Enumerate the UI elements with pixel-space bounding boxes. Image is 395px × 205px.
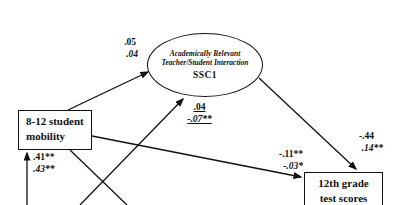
coef-lower-to-mobility-value2: .43** <box>33 164 75 176</box>
coef-mobility-to-test-scores-value1: -.11** <box>258 149 303 161</box>
coef-lower-to-mobility: .41** .43** <box>33 152 75 175</box>
coef-ssc1-to-test-scores-value2: .14** <box>336 143 383 155</box>
coef-lower-to-mobility-value1: .41** <box>33 152 75 164</box>
coef-lower-to-ssc1-value1: .04 <box>172 102 227 114</box>
coef-mobility-to-ssc1: .05 .04 <box>98 37 138 60</box>
line-mobility-to-lower <box>70 150 127 205</box>
coef-lower-to-ssc1-value2: -.07** <box>172 114 227 126</box>
coef-mobility-to-test-scores-value2: -.03* <box>258 161 303 173</box>
box-test-scores-line1: 12th grade <box>318 177 368 189</box>
box-student-mobility: 8-12 student mobility <box>18 110 92 150</box>
coef-lower-to-ssc1: .04 -.07** <box>172 102 227 125</box>
latent-title-line2: Teacher/Student Interaction <box>161 59 248 68</box>
coef-mobility-to-test-scores: -.11** -.03* <box>258 149 303 172</box>
box-test-scores-line2: test scores <box>320 192 368 204</box>
latent-variable-label: SSC1 <box>193 70 217 80</box>
arrow-mobility-to-ssc1 <box>68 72 148 110</box>
box-student-mobility-line2: mobility <box>26 130 65 142</box>
box-student-mobility-line1: 8-12 student <box>26 115 84 127</box>
coef-ssc1-to-test-scores: -.44 .14** <box>336 131 383 154</box>
coef-ssc1-to-test-scores-value1: -.44 <box>336 131 383 143</box>
box-test-scores: 12th grade test scores <box>304 172 383 205</box>
arrow-lower-to-ssc1 <box>80 99 183 205</box>
latent-ellipse-ssc1: Academically Relevant Teacher/Student In… <box>147 33 263 97</box>
path-diagram: Academically Relevant Teacher/Student In… <box>0 0 395 205</box>
coef-mobility-to-ssc1-value2: .04 <box>98 49 138 61</box>
coef-mobility-to-ssc1-value1: .05 <box>98 37 138 49</box>
